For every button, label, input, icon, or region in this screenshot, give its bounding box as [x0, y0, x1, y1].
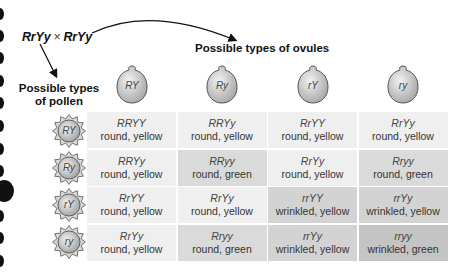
punnett-square: RRYY round, yellowRRYy round, yellowRrYY… [87, 112, 448, 261]
punnett-cell: RRYY round, yellow [87, 112, 176, 148]
cell-phenotype: round, yellow [372, 130, 434, 143]
cell-genotype: rrYy [303, 230, 322, 243]
cell-phenotype: wrinkled, green [367, 243, 438, 256]
cell-phenotype: round, yellow [101, 205, 163, 218]
punnett-cell: Rryy round, green [178, 225, 267, 261]
cell-genotype: rryy [394, 230, 412, 243]
cell-phenotype: round, green [192, 243, 252, 256]
cell-genotype: RrYy [120, 230, 143, 243]
ovule-3: ry [386, 64, 420, 104]
pollen-title-line2: of pollen [14, 95, 104, 108]
cell-genotype: Rryy [211, 230, 233, 243]
ovule-2: rY [296, 64, 330, 104]
punnett-cell: rryy wrinkled, green [359, 225, 448, 261]
pollen-label: ry [52, 236, 86, 247]
punnett-cell: RrYy round, yellow [178, 187, 267, 223]
ovule-0: RY [115, 64, 149, 104]
cell-genotype: RrYY [119, 192, 144, 205]
cell-phenotype: round, yellow [101, 243, 163, 256]
cell-genotype: RRYy [118, 155, 145, 168]
punnett-cell: Rryy round, green [359, 150, 448, 186]
cell-genotype: RRyy [209, 155, 235, 168]
cell-phenotype: round, yellow [101, 130, 163, 143]
cell-genotype: RrYy [210, 192, 233, 205]
cross-operator: × [53, 30, 60, 44]
cell-genotype: rrYy [393, 192, 412, 205]
cell-phenotype: wrinkled, yellow [366, 205, 440, 218]
punnett-cell: rrYy wrinkled, yellow [359, 187, 448, 223]
ovule-label: RY [115, 80, 149, 91]
pollen-label: rY [52, 199, 86, 210]
pollen-title: Possible types of pollen [14, 82, 104, 108]
arrow-to-pollen [40, 44, 56, 76]
arrow-to-ovules [92, 21, 235, 40]
parent2-genotype: RrYy [64, 30, 92, 44]
punnett-cell: RrYY round, yellow [87, 187, 176, 223]
ovule-1: Ry [205, 64, 239, 104]
punnett-cell: RrYy round, yellow [87, 225, 176, 261]
ovule-label: rY [296, 80, 330, 91]
cell-phenotype: round, green [373, 168, 433, 181]
cell-phenotype: round, yellow [101, 168, 163, 181]
ovule-label: ry [386, 80, 420, 91]
cell-phenotype: round, yellow [282, 168, 344, 181]
pollen-0: RY [52, 114, 86, 148]
ovules-title: Possible types of ovules [195, 42, 329, 54]
pollen-label: Ry [52, 162, 86, 173]
cell-phenotype: wrinkled, yellow [276, 205, 350, 218]
punnett-cell: rrYY wrinkled, yellow [268, 187, 357, 223]
punnett-cell: RrYy round, yellow [359, 112, 448, 148]
ovule-label: Ry [205, 80, 239, 91]
cell-genotype: RrYY [300, 117, 325, 130]
pollen-3: ry [52, 225, 86, 259]
pollen-label: RY [52, 125, 86, 136]
cell-phenotype: round, yellow [191, 130, 253, 143]
punnett-cell: RrYY round, yellow [268, 112, 357, 148]
cross-label: RrYy×RrYy [22, 30, 92, 44]
cell-genotype: rrYY [302, 192, 323, 205]
cell-genotype: RRYy [208, 117, 235, 130]
cell-phenotype: round, green [192, 168, 252, 181]
cell-phenotype: round, yellow [191, 205, 253, 218]
cell-phenotype: wrinkled, yellow [276, 243, 350, 256]
pollen-1: Ry [52, 151, 86, 185]
cell-phenotype: round, yellow [282, 130, 344, 143]
cell-genotype: RrYy [301, 155, 324, 168]
punnett-cell: RRyy round, green [178, 150, 267, 186]
pollen-title-line1: Possible types [14, 82, 104, 95]
pollen-2: rY [52, 188, 86, 222]
cell-genotype: Rryy [392, 155, 414, 168]
parent1-genotype: RrYy [22, 30, 50, 44]
punnett-cell: RRYy round, yellow [87, 150, 176, 186]
cell-genotype: RRYY [117, 117, 146, 130]
punnett-cell: RrYy round, yellow [268, 150, 357, 186]
cell-genotype: RrYy [391, 117, 414, 130]
punnett-cell: RRYy round, yellow [178, 112, 267, 148]
punnett-cell: rrYy wrinkled, yellow [268, 225, 357, 261]
